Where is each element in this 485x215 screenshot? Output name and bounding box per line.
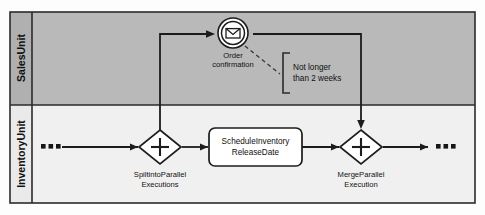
end-ellipsis-marker bbox=[436, 144, 456, 149]
annotation-line-2: than 2 weeks bbox=[293, 74, 341, 83]
order-confirmation-event[interactable] bbox=[218, 18, 248, 48]
lane-label-inventory: InventoryUnit bbox=[15, 120, 27, 188]
split-gateway-label-line-1: SpiltintoParallel bbox=[134, 170, 187, 179]
lane-label-sales: SalesUnit bbox=[15, 34, 27, 82]
merge-gateway-label-line-1: MergeParallel bbox=[338, 170, 385, 179]
schedule-inventory-release-date-task[interactable]: ScheduleInventory ReleaseDate bbox=[209, 128, 302, 166]
order-confirmation-label-line-1: Order bbox=[223, 51, 243, 60]
bpmn-diagram-canvas: SalesUnit InventoryUnit bbox=[0, 0, 485, 215]
task-label-line-2: ReleaseDate bbox=[232, 148, 280, 157]
task-label-line-1: ScheduleInventory bbox=[222, 137, 291, 146]
annotation-line-1: Not longer bbox=[293, 63, 331, 72]
bpmn-svg: SalesUnit InventoryUnit bbox=[0, 0, 485, 215]
merge-gateway-label-line-2: Execution bbox=[344, 180, 377, 189]
split-gateway-label-line-2: Executions bbox=[141, 180, 178, 189]
order-confirmation-label-line-2: confirmation bbox=[212, 60, 253, 69]
start-ellipsis-marker bbox=[41, 144, 61, 149]
